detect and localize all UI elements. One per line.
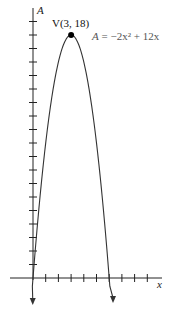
axis-ticks (29, 22, 147, 283)
vertex-label: V(3, 18) (52, 17, 89, 29)
parabola-curve (32, 35, 113, 300)
vertex-point (68, 32, 74, 38)
equation-label: A = −2x² + 12x (92, 30, 159, 42)
parabola-chart (0, 0, 171, 315)
y-axis-label: A (37, 4, 44, 16)
x-axis-label: x (157, 278, 162, 290)
curve-arrowheads (30, 296, 116, 305)
equation-expression: = −2x² + 12x (99, 30, 159, 42)
equation-variable: A (92, 30, 99, 42)
